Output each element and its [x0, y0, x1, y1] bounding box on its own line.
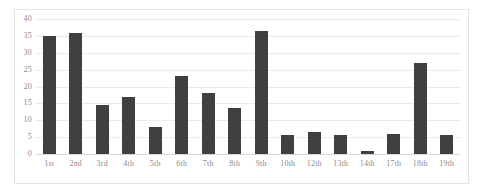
bar-series	[36, 19, 460, 154]
plot-area: 0510152025303540	[36, 19, 460, 154]
bar-slot	[89, 19, 116, 154]
x-axis-tick-label: 8th	[222, 160, 249, 168]
bar[interactable]	[149, 127, 162, 154]
x-axis-tick-label: 14th	[354, 160, 381, 168]
x-axis-tick-label: 4th	[116, 160, 143, 168]
x-axis-tick-label: 12th	[301, 160, 328, 168]
bar[interactable]	[96, 105, 109, 154]
bar[interactable]	[43, 36, 56, 154]
y-axis-tick-label: 25	[24, 66, 32, 74]
bar-slot	[36, 19, 63, 154]
x-axis-tick-label: 19th	[434, 160, 461, 168]
bar-slot	[195, 19, 222, 154]
bar[interactable]	[122, 97, 135, 154]
y-axis-tick-label: 15	[24, 99, 32, 107]
bar[interactable]	[440, 135, 453, 154]
category-axis: 1st2nd3rd4th5th6th7th8th9th10th12th13th1…	[36, 160, 460, 168]
bar[interactable]	[175, 76, 188, 154]
bar[interactable]	[334, 135, 347, 154]
y-axis-tick-label: 40	[24, 15, 32, 23]
bar[interactable]	[228, 108, 241, 154]
bar[interactable]	[255, 31, 268, 154]
bar-slot	[63, 19, 90, 154]
x-axis-tick-label: 3rd	[89, 160, 116, 168]
bar-slot	[142, 19, 169, 154]
y-axis-tick-label: 35	[24, 32, 32, 40]
x-axis-tick-label: 10th	[275, 160, 302, 168]
x-axis-tick-label: 5th	[142, 160, 169, 168]
y-axis-tick-label: 10	[24, 116, 32, 124]
x-axis-tick-label: 13th	[328, 160, 355, 168]
x-axis-tick-label: 6th	[169, 160, 196, 168]
bar-slot	[248, 19, 275, 154]
bar[interactable]	[414, 63, 427, 154]
bar-slot	[381, 19, 408, 154]
bar-slot	[301, 19, 328, 154]
y-axis-tick-label: 20	[24, 83, 32, 91]
y-axis-tick-label: 0	[28, 150, 32, 158]
bar-chart: 0510152025303540 1st2nd3rd4th5th6th7th8t…	[14, 9, 469, 184]
bar-slot	[407, 19, 434, 154]
y-axis-tick-label: 30	[24, 49, 32, 57]
x-axis-tick-label: 7th	[195, 160, 222, 168]
y-axis-tick-label: 5	[28, 133, 32, 141]
x-axis-tick-label: 18th	[407, 160, 434, 168]
gridline: 0	[36, 154, 460, 155]
bar-slot	[222, 19, 249, 154]
bar-slot	[434, 19, 461, 154]
bar[interactable]	[69, 33, 82, 155]
bar-slot	[328, 19, 355, 154]
bar[interactable]	[202, 93, 215, 154]
x-axis-tick-label: 1st	[36, 160, 63, 168]
x-axis-tick-label: 2nd	[63, 160, 90, 168]
bar-slot	[169, 19, 196, 154]
bar[interactable]	[308, 132, 321, 154]
bar-slot	[354, 19, 381, 154]
bar-slot	[116, 19, 143, 154]
bar[interactable]	[387, 134, 400, 154]
x-axis-tick-label: 9th	[248, 160, 275, 168]
bar[interactable]	[281, 135, 294, 154]
x-axis-tick-label: 17th	[381, 160, 408, 168]
bar[interactable]	[361, 151, 374, 154]
bar-slot	[275, 19, 302, 154]
